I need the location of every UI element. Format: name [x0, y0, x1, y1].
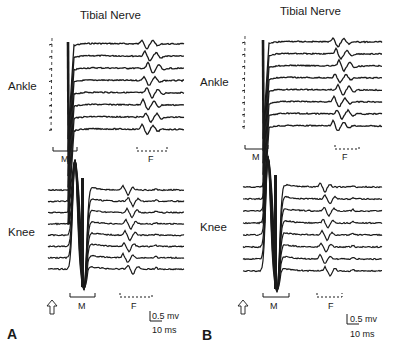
- panel-a-ankle-artifact-column: [51, 38, 52, 133]
- panel-b-ankle-trace: [263, 96, 382, 199]
- panel-b-knee-label: Knee: [200, 221, 227, 233]
- panel-b-ankle-f-bracket: [335, 145, 359, 149]
- panel-a-letter: A: [7, 326, 17, 342]
- panel-a-ankle-stimulus-line: [68, 42, 69, 224]
- panel-b-title: Tibial Nerve: [280, 5, 341, 17]
- panel-b-knee-m-peak-band: [274, 175, 277, 289]
- panel-a-stimulus-arrow-icon: [47, 300, 57, 314]
- panel-a-knee-m-peak-band: [81, 178, 84, 287]
- panel-b-ankle-artifact-column: [244, 36, 245, 130]
- panel-b-letter: B: [202, 327, 212, 343]
- panel-a-ankle-trace: [68, 113, 184, 212]
- panel-b-ankle-label: Ankle: [200, 76, 229, 88]
- panel-a-ankle-label: Ankle: [8, 80, 37, 92]
- panel-b-ankle-trace: [263, 48, 382, 150]
- panel-a-scale-amplitude: 0.5 mv: [152, 311, 179, 321]
- panel-a-ankle-trace: [68, 88, 184, 188]
- panel-a-knee-m-bracket: [70, 293, 95, 297]
- panel-a-ankle-artifact-tick: [49, 129, 52, 130]
- panel-b-ankle-artifact-tick: [242, 126, 245, 127]
- panel-a-knee-label: Knee: [8, 226, 35, 238]
- panel-b-knee-m-bracket: [263, 293, 289, 297]
- panel-b-ankle-trace: [263, 60, 382, 163]
- panel-b-knee-f-label: F: [328, 301, 334, 311]
- panel-b-scale-time: 10 ms: [350, 329, 375, 339]
- panel-a-ankle-m-label: M: [61, 154, 69, 164]
- panel-a-scale-time: 10 ms: [152, 325, 177, 335]
- emg-traces-figure: [0, 0, 394, 352]
- panel-b-stimulus-arrow-icon: [238, 300, 248, 314]
- panel-b-ankle-trace: [263, 85, 382, 188]
- panel-b-knee-m-label: M: [270, 301, 278, 311]
- panel-a-knee-m-label: M: [78, 301, 86, 311]
- panel-a-knee-f-bracket: [120, 293, 152, 297]
- panel-a-ankle-f-bracket: [137, 147, 167, 151]
- panel-a-ankle-trace: [68, 99, 184, 201]
- panel-b-ankle-f-label: F: [342, 152, 348, 162]
- panel-a-ankle-trace: [68, 51, 184, 152]
- panel-a-title: Tibial Nerve: [80, 9, 141, 21]
- panel-b-scale-amplitude: 0.5 mv: [350, 314, 377, 324]
- panel-b-ankle-m-label: M: [252, 152, 260, 162]
- panel-a-ankle-f-label: F: [148, 154, 154, 164]
- panel-b-knee-f-bracket: [317, 293, 342, 297]
- panel-a-knee-f-label: F: [131, 301, 137, 311]
